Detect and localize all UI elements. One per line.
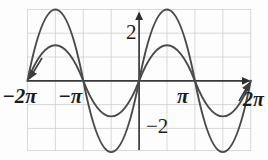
x-axis-label-neg-2pi: −2π bbox=[2, 86, 37, 107]
graph-figure: −2π −π π 2π 2 −2 bbox=[0, 0, 268, 160]
y-axis-label-2: 2 bbox=[126, 22, 137, 43]
x-axis-label-2pi: 2π bbox=[243, 89, 264, 109]
x-axis-label-neg-pi: −π bbox=[58, 86, 82, 107]
x-axis-label-pi: π bbox=[177, 86, 188, 107]
y-axis-label-neg-2: −2 bbox=[146, 116, 168, 137]
